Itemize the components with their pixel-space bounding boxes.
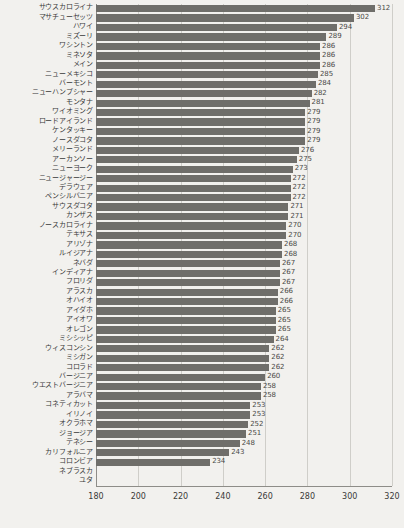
bar [96,43,320,50]
bar [96,33,326,40]
bar [96,260,280,267]
bar-row: ミシシッピ264 [96,335,392,344]
bar-row: ネバダ267 [96,259,392,268]
bar-row: アイダホ265 [96,306,392,315]
bar [96,449,229,456]
bar [96,5,375,12]
bar-row: ニューハンプシャー282 [96,89,392,98]
bar-row: カリフォルニア243 [96,448,392,457]
bar-row: ルイジアナ268 [96,250,392,259]
bar-row: オクラホマ252 [96,420,392,429]
bar-row: オレゴン265 [96,325,392,334]
x-axis-line [96,486,392,487]
category-label: ユタ [79,475,93,485]
bar-row: アラバマ258 [96,391,392,400]
bar-row: コネティカット253 [96,401,392,410]
bar-row: ニューメキシコ285 [96,70,392,79]
bar [96,241,282,248]
bar [96,109,305,116]
bar-row: ハワイ294 [96,23,392,32]
bar-row: インディアナ267 [96,269,392,278]
bar-row: ワイオミング279 [96,108,392,117]
bar [96,326,276,333]
bar-value-label: 302 [356,12,369,22]
bar-row: ウィスコンシン262 [96,344,392,353]
bar-row: ミシガン262 [96,354,392,363]
bar-row: コロンビア234 [96,458,392,467]
bar-row: ケンタッキー279 [96,127,392,136]
bar-row: カンザス271 [96,212,392,221]
bar-row: ワシントン286 [96,42,392,51]
bar-row: コロラド262 [96,363,392,372]
bar-row: ウエストバージニア258 [96,382,392,391]
bar-row: ノースダコタ279 [96,136,392,145]
bar [96,307,276,314]
x-tick-label: 300 [342,492,357,502]
x-tick-label: 180 [88,492,103,502]
bar [96,383,261,390]
x-tick-label: 320 [384,492,399,502]
bar [96,355,269,362]
bar-row: ミズーリ289 [96,32,392,41]
x-tick-label: 260 [258,492,273,502]
bar-row: オハイオ266 [96,297,392,306]
bar-row: アイオワ265 [96,316,392,325]
bar-value-label: 234 [212,456,225,466]
bar [96,118,305,125]
bar-row: ミネソタ286 [96,51,392,60]
bar-row: モンタナ281 [96,99,392,108]
bar [96,374,265,381]
bar [96,137,305,144]
bar-row: アーカンソー275 [96,155,392,164]
bar [96,270,280,277]
bar-row: ノースカロライナ270 [96,221,392,230]
bar-value-label: 312 [377,3,390,13]
bar-row: デラウェア272 [96,184,392,193]
bar-row: アラスカ266 [96,288,392,297]
bar [96,128,305,135]
bar [96,14,354,21]
bar [96,402,250,409]
bar [96,345,269,352]
bar [96,232,286,239]
bar-row: ペンシルバニア272 [96,193,392,202]
bar [96,421,248,428]
bar [96,71,318,78]
bar [96,90,312,97]
bar [96,166,293,173]
bar [96,364,269,371]
bar-row: アリゾナ268 [96,240,392,249]
bar [96,289,278,296]
bar [96,440,240,447]
x-tick-label: 220 [173,492,188,502]
bar [96,52,320,59]
bar-row: ニューヨーク273 [96,165,392,174]
bar [96,317,276,324]
x-tick-label: 280 [300,492,315,502]
bar [96,392,261,399]
bar [96,24,337,31]
bar-value-label: 243 [231,447,244,457]
bar-row: ネブラスカ [96,467,392,476]
bar [96,203,288,210]
x-tick-label: 200 [131,492,146,502]
bar [96,156,297,163]
bar-row: メイン286 [96,61,392,70]
bar [96,185,291,192]
bar [96,298,278,305]
bar-row: イリノイ253 [96,410,392,419]
x-tick-label: 240 [215,492,230,502]
bar-row: テキサス270 [96,231,392,240]
bar-row: サウスダコタ271 [96,202,392,211]
bar [96,430,246,437]
grid-line-320 [392,4,393,486]
bar [96,251,282,258]
bar-row: メリーランド276 [96,146,392,155]
bar-row: フロリダ267 [96,278,392,287]
bar-row: サウスカロライナ312 [96,4,392,13]
bar-row: ニュージャージー272 [96,174,392,183]
bar-row: ユタ [96,477,392,486]
bar [96,279,280,286]
bar [96,222,286,229]
bar [96,213,288,220]
